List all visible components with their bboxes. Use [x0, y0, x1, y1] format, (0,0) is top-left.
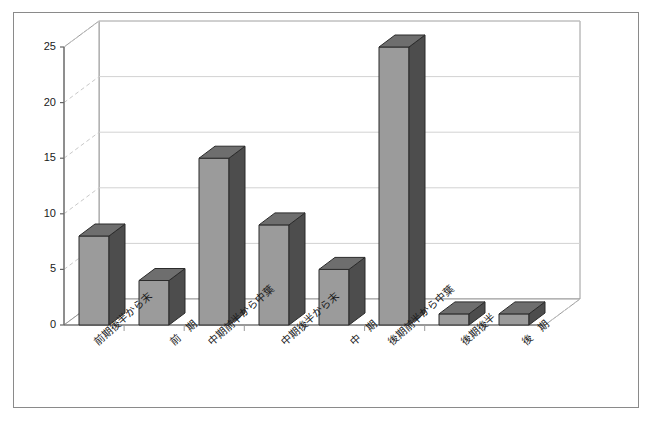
y-tick-label-25: 25	[32, 40, 56, 52]
bar-2[interactable]	[199, 146, 245, 325]
bar-chart-3d	[14, 13, 640, 409]
y-tick-label-15: 15	[32, 151, 56, 163]
bar-3[interactable]	[259, 213, 305, 325]
bar-5[interactable]	[379, 35, 425, 325]
y-tick-label-20: 20	[32, 96, 56, 108]
y-axis	[60, 47, 64, 325]
chart-screenshot: 0 5 10 15 20 25 前期後半から末 前 期 中期前半から中葉 中期後…	[0, 0, 653, 422]
y-tick-label-5: 5	[36, 262, 56, 274]
figure-frame: 0 5 10 15 20 25 前期後半から末 前 期 中期前半から中葉 中期後…	[13, 12, 639, 408]
y-tick-label-0: 0	[36, 318, 56, 330]
y-tick-label-10: 10	[32, 207, 56, 219]
